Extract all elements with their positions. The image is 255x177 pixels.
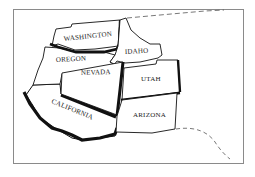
label-utah: UTAH (141, 75, 161, 83)
label-idaho: IDAHO (125, 47, 149, 56)
label-nevada: NEVADA (81, 68, 111, 77)
label-arizona: ARIZONA (133, 111, 166, 119)
label-oregon: OREGON (56, 54, 87, 64)
western-states-map: WASHINGTON OREGON IDAHO NEVADA UTAH CALI… (0, 0, 255, 177)
